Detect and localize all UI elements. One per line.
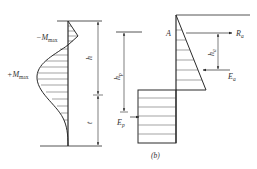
active-force-label: Ea	[227, 72, 236, 82]
point-a-label: A	[165, 29, 171, 38]
passive-force-label: Ep	[116, 118, 125, 128]
passive-hatching	[138, 98, 176, 134]
active-pressure-triangle	[176, 15, 206, 90]
dim-h-label: h	[85, 56, 94, 60]
active-hatching	[176, 30, 202, 80]
dim-ha-label: ha	[207, 49, 217, 56]
retaining-wall-diagram: −Mmax +Mmax h t	[0, 0, 257, 169]
neg-moment-label: −Mmax	[36, 33, 58, 43]
pos-moment-label: +Mmax	[7, 70, 29, 80]
pressure-diagram: A Ra Ea ha hp Ep (b)	[113, 15, 250, 160]
anchor-force-label: Ra	[235, 29, 244, 39]
dim-hp-label: hp	[113, 73, 123, 80]
moment-diagram: −Mmax +Mmax h t	[7, 21, 103, 146]
figure-caption: (b)	[151, 151, 160, 160]
dim-t-label: t	[85, 121, 94, 124]
